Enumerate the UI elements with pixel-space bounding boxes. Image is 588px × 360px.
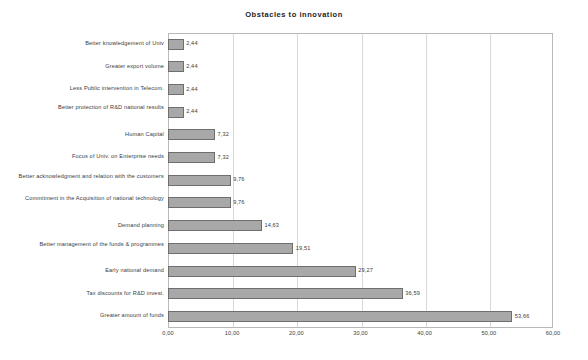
bar-value-label: 2,44 [186,39,198,48]
bar-value-label: 19,51 [296,244,311,253]
bar [168,311,512,322]
bar [168,220,262,231]
chart-row: Demand planning14,63 [0,215,588,238]
bar-chart: Obstacles to innovation Better knowledge… [0,0,588,360]
chart-title: Obstacles to innovation [0,10,588,19]
category-label: Better protection of R&D national result… [4,104,164,111]
bar-value-label: 53,66 [515,312,530,321]
chart-row: Better knowledgement of Univ2,44 [0,33,588,56]
bar-value-label: 14,63 [264,221,279,230]
chart-row: Commitment in the Acquisition of nationa… [0,192,588,215]
x-axis: 0,0010,0020,0030,0040,0050,0060,00 [0,330,588,344]
bar-value-label: 2,44 [186,85,198,94]
bar [168,152,215,163]
chart-row: Less Public intervention in Telecom.2,44 [0,78,588,101]
x-tick-label: 0,00 [148,330,188,336]
category-label: Human Capital [4,131,164,138]
bar [168,39,184,50]
bar [168,129,215,140]
bar [168,288,403,299]
x-tick-label: 10,00 [212,330,252,336]
category-label: Commitment in the Acquisition of nationa… [4,195,164,202]
bar-value-label: 36,59 [405,289,420,298]
category-label: Better management of the funds & program… [4,241,164,248]
bar-value-label: 29,27 [358,266,373,275]
chart-rows: Better knowledgement of Univ2,44Greater … [0,33,588,328]
chart-row: Tax discounts for R&D invest.36,59 [0,283,588,306]
chart-row: Early national demand29,27 [0,260,588,283]
x-tick-label: 50,00 [469,330,509,336]
chart-row: Better acknowledgment and relation with … [0,169,588,192]
x-tick-label: 20,00 [276,330,316,336]
bar-value-label: 7,32 [217,153,229,162]
category-label: Focus of Univ. on Enterprise needs [4,153,164,160]
category-label: Better acknowledgment and relation with … [4,173,164,180]
x-tick-label: 40,00 [405,330,445,336]
chart-row: Better management of the funds & program… [0,237,588,260]
category-label: Greater amount of funds [4,312,164,319]
chart-row: Focus of Univ. on Enterprise needs7,32 [0,146,588,169]
bar [168,197,231,208]
bar-value-label: 7,32 [217,130,229,139]
category-label: Early national demand [4,267,164,274]
bar [168,84,184,95]
chart-row: Greater amount of funds53,66 [0,305,588,328]
bar-value-label: 9,76 [233,198,245,207]
category-label: Better knowledgement of Univ [4,40,164,47]
category-label: Greater export volume [4,63,164,70]
chart-row: Human Capital7,32 [0,124,588,147]
bar [168,107,184,118]
bar [168,266,356,277]
bar [168,175,231,186]
bar [168,61,184,72]
bar-value-label: 2,44 [186,62,198,71]
bar [168,243,293,254]
category-label: Demand planning [4,222,164,229]
bar-value-label: 9,76 [233,175,245,184]
category-label: Tax discounts for R&D invest. [4,290,164,297]
chart-row: Better protection of R&D national result… [0,101,588,124]
chart-row: Greater export volume2,44 [0,56,588,79]
bar-value-label: 2,44 [186,107,198,116]
x-tick-label: 60,00 [533,330,573,336]
category-label: Less Public intervention in Telecom. [4,85,164,92]
x-tick-label: 30,00 [341,330,381,336]
